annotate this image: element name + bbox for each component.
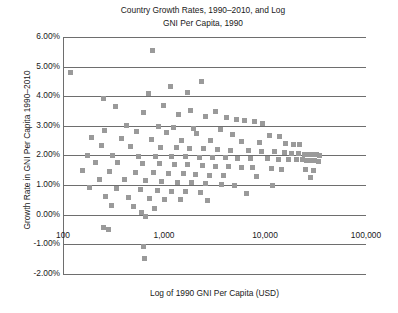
data-point <box>272 149 277 154</box>
data-point <box>142 256 147 261</box>
data-point <box>260 121 265 126</box>
data-point <box>200 163 205 168</box>
data-point <box>149 137 154 142</box>
data-point <box>168 84 173 89</box>
data-point <box>189 180 194 185</box>
data-point <box>219 182 224 187</box>
data-point <box>169 154 174 159</box>
data-point <box>291 142 296 147</box>
data-point <box>246 148 251 153</box>
data-point <box>172 162 177 167</box>
data-point <box>232 183 237 188</box>
data-point <box>223 155 228 160</box>
data-point <box>124 123 129 128</box>
data-point <box>153 154 158 159</box>
data-point <box>89 135 94 140</box>
data-point <box>248 156 253 161</box>
data-point <box>166 171 171 176</box>
data-point <box>174 145 179 150</box>
data-point <box>185 90 190 95</box>
data-point <box>155 188 160 193</box>
data-point <box>221 173 226 178</box>
data-point <box>296 151 301 156</box>
data-point <box>205 198 210 203</box>
data-point <box>159 179 164 184</box>
data-point <box>157 161 162 166</box>
data-point <box>141 110 146 115</box>
data-point <box>101 96 106 101</box>
data-point <box>235 156 240 161</box>
data-point <box>181 171 186 176</box>
y-tick-label: 1.00% <box>0 179 60 189</box>
data-point <box>122 177 127 182</box>
data-point <box>210 155 215 160</box>
data-point <box>276 157 281 162</box>
data-point <box>289 151 294 156</box>
chart-title: Country Growth Rates, 1990–2010, and Log… <box>48 4 358 29</box>
data-point <box>179 138 184 143</box>
data-point <box>286 157 291 162</box>
data-point <box>152 206 157 211</box>
data-point <box>230 132 235 137</box>
data-point <box>175 180 180 185</box>
data-point <box>297 142 302 147</box>
data-point <box>164 130 169 135</box>
data-point <box>187 146 192 151</box>
data-point <box>265 156 270 161</box>
data-point <box>87 185 92 190</box>
data-point <box>303 167 308 172</box>
data-point <box>128 144 133 149</box>
data-point <box>203 181 208 186</box>
y-tick-label: -2.00% <box>0 268 60 278</box>
data-point <box>239 165 244 170</box>
data-point <box>199 79 204 84</box>
data-point <box>156 124 161 129</box>
data-point <box>283 141 288 146</box>
data-point <box>134 129 139 134</box>
data-point <box>215 147 220 152</box>
data-point <box>197 155 202 160</box>
data-point <box>178 197 183 202</box>
data-point <box>115 160 120 165</box>
data-point <box>282 150 287 155</box>
data-point <box>203 114 208 119</box>
data-point <box>93 160 98 165</box>
data-point <box>194 131 199 136</box>
data-point <box>224 115 229 120</box>
data-point <box>133 170 138 175</box>
data-point <box>279 167 284 172</box>
data-point <box>110 153 115 158</box>
data-point <box>254 174 259 179</box>
data-point <box>183 189 188 194</box>
data-point <box>138 187 143 192</box>
data-point <box>171 125 176 130</box>
data-point <box>267 133 272 138</box>
data-point <box>201 146 206 151</box>
data-point <box>114 186 119 191</box>
data-point <box>146 91 151 96</box>
data-point <box>169 189 174 194</box>
data-point <box>106 227 111 232</box>
data-point <box>188 108 193 113</box>
data-point <box>218 127 223 132</box>
data-point <box>198 190 203 195</box>
data-point <box>113 104 118 109</box>
data-point <box>150 48 155 53</box>
data-point <box>317 153 322 158</box>
gridline <box>63 274 366 275</box>
data-point <box>213 109 218 114</box>
data-point <box>85 153 90 158</box>
data-point <box>259 149 264 154</box>
data-point <box>277 134 282 139</box>
data-point <box>161 103 166 108</box>
data-point <box>68 70 73 75</box>
data-point <box>257 140 262 145</box>
data-point <box>228 148 233 153</box>
y-tick-label: 3.00% <box>0 120 60 130</box>
data-point <box>185 162 190 167</box>
data-point <box>252 119 257 124</box>
y-tick-label: 2.00% <box>0 149 60 159</box>
data-point <box>207 173 212 178</box>
data-point <box>162 197 167 202</box>
data-point <box>269 166 274 171</box>
